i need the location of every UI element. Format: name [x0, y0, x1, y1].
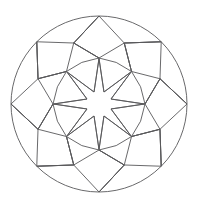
figure-canvas: [0, 0, 198, 207]
figure-background: [0, 0, 198, 207]
rosette-drawing: [0, 0, 198, 207]
